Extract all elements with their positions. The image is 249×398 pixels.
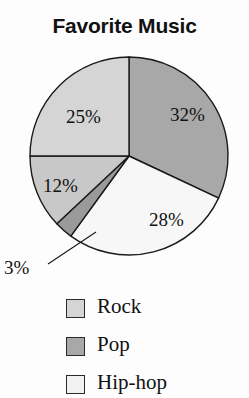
chart-legend: RockPopHip-hop <box>0 296 249 398</box>
slice-percentage-label: 3% <box>4 257 30 278</box>
legend-item-label: Hip-hop <box>97 370 167 395</box>
legend-item[interactable]: Pop <box>0 334 249 372</box>
legend-item[interactable]: Rock <box>0 296 249 334</box>
legend-color-swatch <box>66 375 85 394</box>
slice-percentage-label: 12% <box>43 175 78 196</box>
slice-percentage-label: 25% <box>66 106 101 127</box>
slice-percentage-label: 28% <box>149 209 184 230</box>
legend-color-swatch <box>66 337 85 356</box>
slice-percentage-label: 32% <box>170 104 205 125</box>
legend-item[interactable]: Hip-hop <box>0 372 249 398</box>
pie-slices-group <box>30 57 228 255</box>
legend-item-label: Rock <box>97 294 141 319</box>
legend-item-label: Pop <box>97 332 130 357</box>
pie-chart-svg: 32%28%3%12%25% <box>0 0 249 290</box>
pie-chart-area: 32%28%3%12%25% <box>0 0 249 290</box>
legend-color-swatch <box>66 299 85 318</box>
